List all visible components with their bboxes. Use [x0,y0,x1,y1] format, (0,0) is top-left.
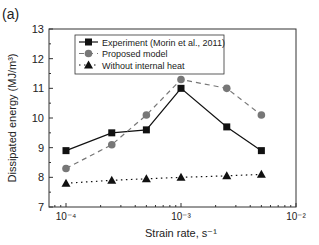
series-circle [62,76,265,173]
square-marker [143,126,150,133]
triangle-marker [222,171,231,179]
chart-canvas: (a) 7891011121310⁻⁴10⁻³10⁻² Experiment (… [0,0,319,245]
legend-label: Without internal heat [102,61,185,71]
square-marker [108,129,115,136]
triangle-marker [177,173,186,181]
square-marker [63,147,70,154]
x-tick-label: 10⁻³ [171,211,191,222]
circle-marker [85,50,93,58]
x-tick-label: 10⁻² [286,211,306,222]
circle-marker [258,111,266,119]
legend-label: Proposed model [102,49,168,59]
y-tick-label: 8 [38,171,44,183]
panel-label: (a) [2,6,19,22]
square-marker [178,85,185,92]
square-marker [85,39,92,46]
legend-label: Experiment (Morin et al., 2011) [102,38,225,48]
circle-marker [62,165,70,173]
series-line [66,174,261,183]
chart-figure: (a) 7891011121310⁻⁴10⁻³10⁻² Experiment (… [0,0,319,245]
circle-marker [108,141,116,149]
y-tick-label: 9 [38,142,44,154]
y-axis-label: Dissipated energy (MJ/m³) [6,54,18,183]
y-tick-label: 7 [38,201,44,213]
triangle-marker [107,176,116,184]
square-marker [258,147,265,154]
x-tick-label: 10⁻⁴ [56,211,76,222]
square-marker [223,123,230,130]
x-axis-label: Strain rate, s⁻¹ [145,227,217,239]
y-tick-label: 12 [32,53,44,65]
legend: Experiment (Morin et al., 2011)Proposed … [75,35,225,74]
circle-marker [177,76,185,84]
triangle-marker [142,174,151,182]
triangle-marker [257,170,266,178]
series-line [66,79,261,168]
circle-marker [223,85,231,93]
triangle-marker [62,179,71,187]
y-tick-label: 13 [32,23,44,35]
series-triangle [62,170,266,187]
y-tick-label: 10 [32,112,44,124]
series-square [63,85,265,154]
circle-marker [143,111,151,119]
series-group [62,76,266,187]
y-tick-label: 11 [33,82,44,94]
